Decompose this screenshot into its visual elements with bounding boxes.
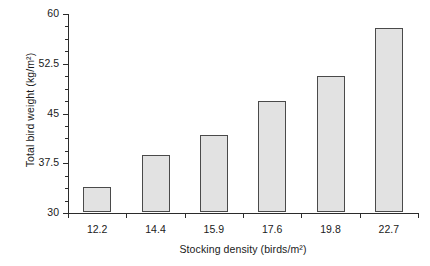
tick-mark bbox=[63, 114, 68, 115]
x-tick-mark bbox=[418, 213, 419, 218]
tick-mark bbox=[63, 14, 68, 15]
y-axis-title: Total bird weight (kg/m²) bbox=[24, 10, 36, 210]
tick-mark bbox=[65, 138, 68, 139]
bar bbox=[375, 28, 403, 212]
bar bbox=[142, 155, 170, 212]
x-tick-mark bbox=[185, 213, 186, 218]
y-tick-label: 45 bbox=[47, 107, 59, 119]
x-tick-label: 12.2 bbox=[87, 223, 107, 235]
tick-mark bbox=[63, 64, 68, 65]
bar bbox=[200, 135, 228, 212]
tick-mark bbox=[65, 176, 68, 177]
tick-mark bbox=[65, 151, 68, 152]
tick-mark bbox=[63, 163, 68, 164]
bar bbox=[317, 76, 345, 212]
tick-mark bbox=[65, 126, 68, 127]
y-axis-line bbox=[68, 14, 69, 214]
x-tick-mark bbox=[360, 213, 361, 218]
bar bbox=[83, 187, 111, 212]
y-tick-label: 60 bbox=[47, 7, 59, 19]
x-tick-label: 22.7 bbox=[379, 223, 399, 235]
tick-mark bbox=[65, 26, 68, 27]
y-tick-label: 52.5 bbox=[39, 57, 59, 69]
tick-mark bbox=[65, 39, 68, 40]
tick-mark bbox=[65, 201, 68, 202]
x-tick-mark bbox=[126, 213, 127, 218]
x-axis-title: Stocking density (birds/m²) bbox=[68, 243, 418, 255]
x-tick-label: 19.8 bbox=[320, 223, 340, 235]
x-tick-mark bbox=[243, 213, 244, 218]
y-tick-label: 37.5 bbox=[39, 156, 59, 168]
x-tick-mark bbox=[301, 213, 302, 218]
tick-mark bbox=[65, 101, 68, 102]
tick-mark bbox=[65, 89, 68, 90]
x-tick-label: 15.9 bbox=[204, 223, 224, 235]
x-tick-label: 14.4 bbox=[145, 223, 165, 235]
x-tick-label: 17.6 bbox=[262, 223, 282, 235]
tick-mark bbox=[65, 51, 68, 52]
x-tick-mark bbox=[68, 213, 69, 218]
tick-mark bbox=[65, 188, 68, 189]
bar-chart-figure: Total bird weight (kg/m²) 3037.54552.560… bbox=[0, 0, 430, 266]
plot-area: 3037.54552.560 12.214.415.917.619.822.7 bbox=[68, 14, 418, 213]
tick-mark bbox=[65, 76, 68, 77]
y-tick-label: 30 bbox=[47, 206, 59, 218]
bar bbox=[258, 101, 286, 212]
